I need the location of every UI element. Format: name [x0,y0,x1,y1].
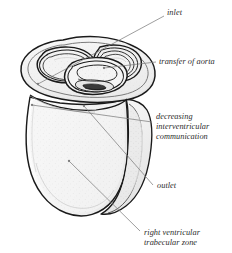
ventricular-body-group [26,97,152,216]
annotation-label-decreasing-interventricular-communication: decreasing interventricular communicatio… [156,112,209,143]
leader-dot-transfer-of-aorta [103,67,105,69]
leader-dot-right-ventricular-trabecular-zone [68,160,70,162]
annotation-label-outlet: outlet [157,181,176,191]
annotation-label-right-ventricular-trabecular-zone: right ventricular trabecular zone [144,228,200,248]
leader-dot-inlet [37,83,39,85]
annotation-label-transfer-of-aorta: transfer of aorta [159,57,215,67]
interventricular-communication-group [65,58,128,95]
anatomical-figure: inlet transfer of aorta decreasing inter… [0,0,232,253]
annotation-label-inlet: inlet [167,8,182,18]
leader-dot-decreasing-interventricular-communication [31,104,33,106]
leader-dot-outlet [83,105,85,107]
